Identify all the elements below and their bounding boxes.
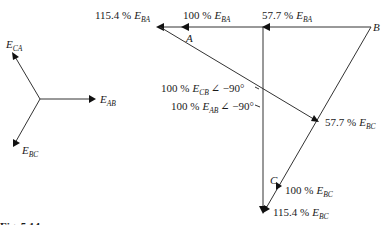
e-ab-arrowhead-icon bbox=[89, 95, 96, 103]
label-57-e-ba: 57.7 %EBA bbox=[262, 9, 312, 24]
label-100-e-bc: 100 %EBC bbox=[285, 184, 334, 199]
figure-caption: Fig. 5.14 bbox=[0, 220, 41, 225]
e-ca-phasor-line bbox=[14, 55, 40, 99]
reference-phasors: ECA EAB EBC bbox=[5, 38, 116, 159]
e-bc-phasor-line bbox=[15, 99, 40, 143]
ab-leader-tick bbox=[255, 105, 260, 107]
label-100-e-ba: 100 %EBA bbox=[183, 9, 231, 24]
e-bc-label: EBC bbox=[21, 144, 39, 159]
label-115-e-ba: 115.4 %EBA bbox=[95, 9, 151, 24]
e-ca-arrowhead-icon bbox=[12, 52, 19, 60]
label-115-e-bc: 115.4 %EBC bbox=[273, 206, 330, 221]
cb-leader-tick bbox=[255, 87, 259, 89]
point-c-label: C bbox=[270, 174, 278, 186]
point-b-label: B bbox=[373, 21, 380, 33]
e-ba-100-arrowhead-icon bbox=[181, 23, 189, 31]
phasor-diagram: ECA EAB EBC A B C 115.4 %EBA 100 %EBA 57… bbox=[0, 0, 386, 225]
e-ca-label: ECA bbox=[5, 38, 23, 53]
label-100-e-cb-rot: 100 %ECB∠ −90° bbox=[161, 82, 244, 97]
e-ab-label: EAB bbox=[99, 93, 116, 108]
label-57-e-bc: 57.7 %EBC bbox=[325, 116, 376, 131]
label-100-e-ab-rot: 100 %EAB∠ −90° bbox=[171, 100, 254, 115]
point-a-label: A bbox=[185, 32, 193, 44]
